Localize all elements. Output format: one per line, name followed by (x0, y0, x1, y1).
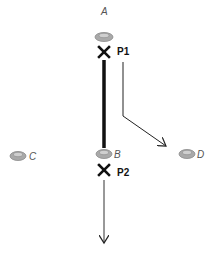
node-label-c: C (29, 151, 37, 162)
node-label-b: B (114, 149, 121, 160)
node-a-ellipse (95, 33, 113, 42)
p1-path-arrow (123, 62, 166, 146)
node-d-ellipse (179, 150, 195, 159)
p2-label: P2 (117, 167, 130, 178)
node-label-a: A (100, 6, 108, 17)
node-c-ellipse (10, 152, 26, 161)
node-label-d: D (197, 149, 204, 160)
p2-cross-icon (99, 165, 109, 175)
p1-cross-icon (99, 47, 109, 57)
diagram-canvas: A P1 B C D P2 (0, 0, 206, 256)
p1-label: P1 (117, 46, 130, 57)
node-b-ellipse (96, 150, 112, 159)
